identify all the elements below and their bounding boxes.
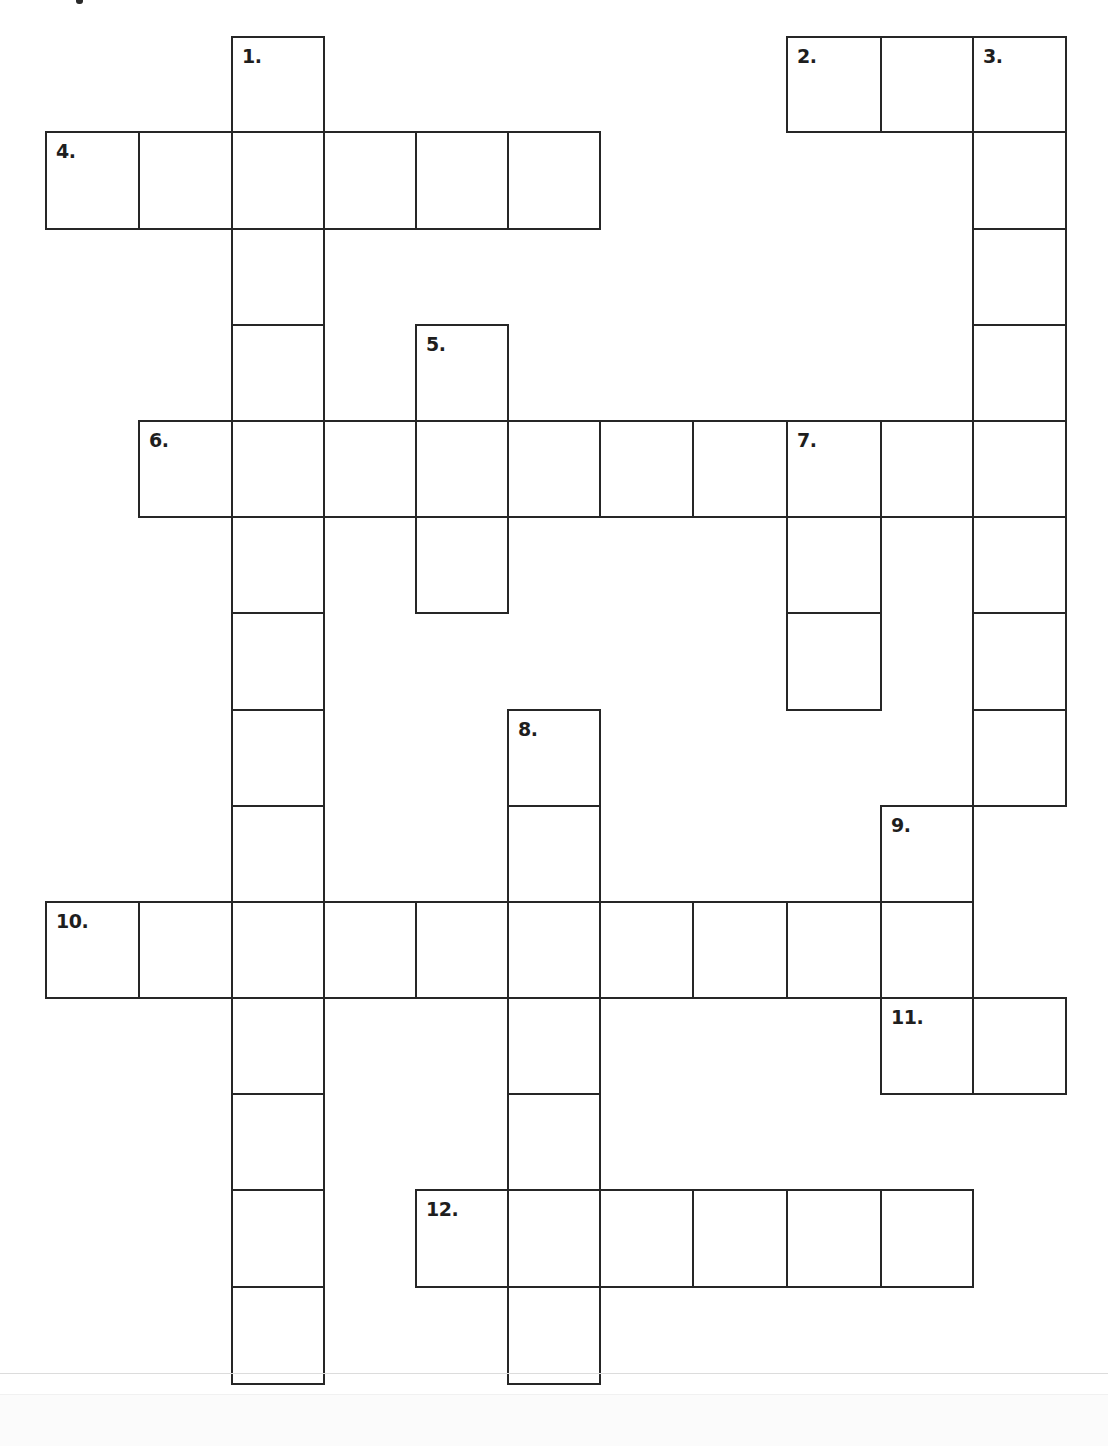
crossword-cell[interactable]	[231, 1093, 325, 1191]
cell-letter-input[interactable]	[974, 614, 1065, 709]
crossword-cell[interactable]	[415, 131, 509, 230]
crossword-cell[interactable]	[231, 709, 325, 807]
cell-letter-input[interactable]	[882, 807, 972, 901]
crossword-cell[interactable]	[231, 131, 325, 230]
cell-letter-input[interactable]	[509, 807, 599, 901]
crossword-cell[interactable]	[692, 420, 788, 518]
crossword-cell[interactable]: 12.	[415, 1189, 509, 1288]
cell-letter-input[interactable]	[140, 133, 231, 228]
cell-letter-input[interactable]	[882, 422, 972, 516]
cell-letter-input[interactable]	[509, 133, 599, 228]
cell-letter-input[interactable]	[509, 711, 599, 805]
crossword-cell[interactable]	[972, 420, 1067, 518]
cell-letter-input[interactable]	[509, 903, 599, 997]
crossword-cell[interactable]	[972, 709, 1067, 807]
crossword-cell[interactable]: 10.	[45, 901, 140, 999]
crossword-cell[interactable]	[786, 516, 882, 614]
crossword-cell[interactable]	[786, 612, 882, 711]
cell-letter-input[interactable]	[233, 133, 323, 228]
cell-letter-input[interactable]	[974, 999, 1065, 1093]
crossword-cell[interactable]	[231, 516, 325, 614]
crossword-cell[interactable]: 8.	[507, 709, 601, 807]
crossword-cell[interactable]	[138, 131, 233, 230]
crossword-cell[interactable]	[415, 420, 509, 518]
crossword-cell[interactable]	[323, 420, 417, 518]
cell-letter-input[interactable]	[788, 903, 880, 997]
crossword-cell[interactable]	[231, 901, 325, 999]
crossword-cell[interactable]: 2.	[786, 36, 882, 133]
cell-letter-input[interactable]	[325, 422, 415, 516]
cell-letter-input[interactable]	[974, 38, 1065, 131]
crossword-cell[interactable]: 5.	[415, 324, 509, 422]
crossword-cell[interactable]	[138, 901, 233, 999]
cell-letter-input[interactable]	[233, 903, 323, 997]
crossword-cell[interactable]	[880, 36, 974, 133]
cell-letter-input[interactable]	[417, 518, 507, 612]
crossword-cell[interactable]	[692, 901, 788, 999]
crossword-cell[interactable]	[507, 1189, 601, 1288]
cell-letter-input[interactable]	[788, 518, 880, 612]
cell-letter-input[interactable]	[140, 422, 231, 516]
cell-letter-input[interactable]	[233, 614, 323, 709]
cell-letter-input[interactable]	[417, 133, 507, 228]
cell-letter-input[interactable]	[974, 518, 1065, 612]
cell-letter-input[interactable]	[417, 903, 507, 997]
cell-letter-input[interactable]	[233, 518, 323, 612]
cell-letter-input[interactable]	[140, 903, 231, 997]
crossword-cell[interactable]: 7.	[786, 420, 882, 518]
crossword-cell[interactable]	[599, 901, 694, 999]
cell-letter-input[interactable]	[974, 422, 1065, 516]
cell-letter-input[interactable]	[509, 1191, 599, 1286]
cell-letter-input[interactable]	[233, 1288, 323, 1383]
cell-letter-input[interactable]	[694, 903, 786, 997]
cell-letter-input[interactable]	[47, 133, 138, 228]
cell-letter-input[interactable]	[601, 903, 692, 997]
cell-letter-input[interactable]	[788, 614, 880, 709]
crossword-cell[interactable]	[507, 420, 601, 518]
cell-letter-input[interactable]	[325, 903, 415, 997]
cell-letter-input[interactable]	[233, 1095, 323, 1189]
cell-letter-input[interactable]	[417, 326, 507, 420]
crossword-cell[interactable]: 6.	[138, 420, 233, 518]
cell-letter-input[interactable]	[233, 999, 323, 1093]
cell-letter-input[interactable]	[974, 326, 1065, 420]
cell-letter-input[interactable]	[788, 38, 880, 131]
cell-letter-input[interactable]	[882, 38, 972, 131]
cell-letter-input[interactable]	[974, 230, 1065, 324]
crossword-cell[interactable]	[231, 805, 325, 903]
crossword-cell[interactable]	[880, 1189, 974, 1288]
cell-letter-input[interactable]	[788, 422, 880, 516]
crossword-cell[interactable]	[415, 901, 509, 999]
crossword-cell[interactable]	[692, 1189, 788, 1288]
crossword-cell[interactable]	[972, 612, 1067, 711]
crossword-cell[interactable]	[231, 612, 325, 711]
crossword-cell[interactable]	[972, 324, 1067, 422]
cell-letter-input[interactable]	[509, 999, 599, 1093]
crossword-cell[interactable]	[231, 324, 325, 422]
cell-letter-input[interactable]	[417, 422, 507, 516]
crossword-cell[interactable]	[972, 131, 1067, 230]
crossword-cell[interactable]	[231, 1286, 325, 1385]
cell-letter-input[interactable]	[233, 1191, 323, 1286]
cell-letter-input[interactable]	[509, 1095, 599, 1189]
crossword-cell[interactable]	[880, 901, 974, 999]
crossword-cell[interactable]	[507, 805, 601, 903]
cell-letter-input[interactable]	[509, 422, 599, 516]
cell-letter-input[interactable]	[509, 1288, 599, 1383]
cell-letter-input[interactable]	[233, 422, 323, 516]
crossword-cell[interactable]	[599, 1189, 694, 1288]
cell-letter-input[interactable]	[47, 903, 138, 997]
cell-letter-input[interactable]	[233, 807, 323, 901]
crossword-cell[interactable]	[786, 1189, 882, 1288]
cell-letter-input[interactable]	[882, 999, 972, 1093]
cell-letter-input[interactable]	[882, 903, 972, 997]
crossword-cell[interactable]	[507, 1093, 601, 1191]
cell-letter-input[interactable]	[788, 1191, 880, 1286]
crossword-cell[interactable]	[972, 228, 1067, 326]
cell-letter-input[interactable]	[974, 133, 1065, 228]
crossword-cell[interactable]: 4.	[45, 131, 140, 230]
crossword-cell[interactable]: 3.	[972, 36, 1067, 133]
cell-letter-input[interactable]	[882, 1191, 972, 1286]
crossword-cell[interactable]: 11.	[880, 997, 974, 1095]
cell-letter-input[interactable]	[694, 422, 786, 516]
